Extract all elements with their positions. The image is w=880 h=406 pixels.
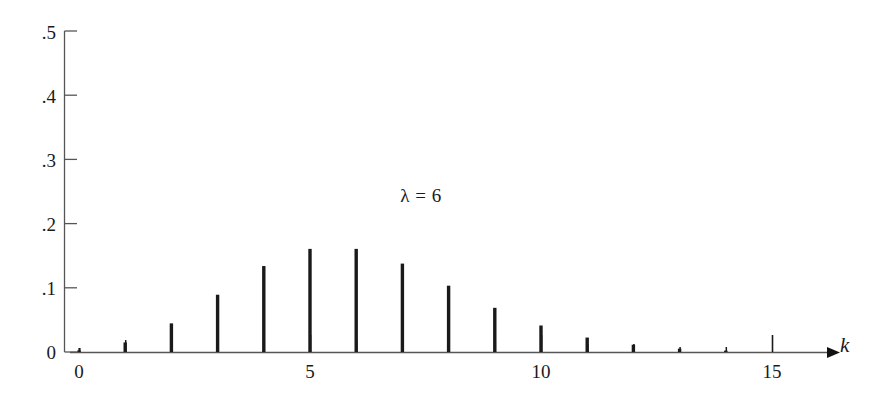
x-tick-label-0: 0 — [74, 362, 84, 381]
y-tick-label-1: .1 — [24, 279, 56, 298]
bar-k-9 — [493, 308, 496, 352]
bar-k-0 — [77, 350, 80, 352]
bars-group — [77, 249, 727, 352]
x-tick-label-10: 10 — [532, 362, 551, 381]
y-tick-label-4: .4 — [24, 87, 56, 106]
bar-k-13 — [678, 349, 681, 352]
poisson-pmf-figure: 0 .1 .2 .3 .4 .5 0 5 10 15 λ = 6 k — [0, 0, 880, 406]
bar-k-5 — [308, 249, 311, 352]
x-axis-label: k — [840, 333, 849, 358]
bar-k-1 — [124, 342, 127, 352]
y-tick-label-2: .2 — [24, 215, 56, 234]
bar-k-6 — [355, 249, 358, 352]
bar-k-10 — [539, 325, 542, 352]
lambda-annotation: λ = 6 — [400, 185, 441, 207]
y-tick-label-3: .3 — [24, 151, 56, 170]
bar-k-14 — [724, 351, 727, 352]
bar-k-2 — [170, 323, 173, 352]
x-tick-label-15: 15 — [763, 362, 782, 381]
y-tick-label-0: 0 — [24, 343, 56, 362]
bar-k-4 — [262, 266, 265, 352]
x-tick-label-5: 5 — [305, 362, 315, 381]
bar-k-12 — [632, 345, 635, 352]
bar-k-7 — [401, 264, 404, 352]
y-tick-label-5: .5 — [24, 23, 56, 42]
bar-k-3 — [216, 295, 219, 352]
x-axis-arrow-icon — [827, 347, 840, 358]
axes-group — [65, 31, 841, 358]
bar-k-11 — [586, 338, 589, 352]
bar-k-8 — [447, 286, 450, 352]
